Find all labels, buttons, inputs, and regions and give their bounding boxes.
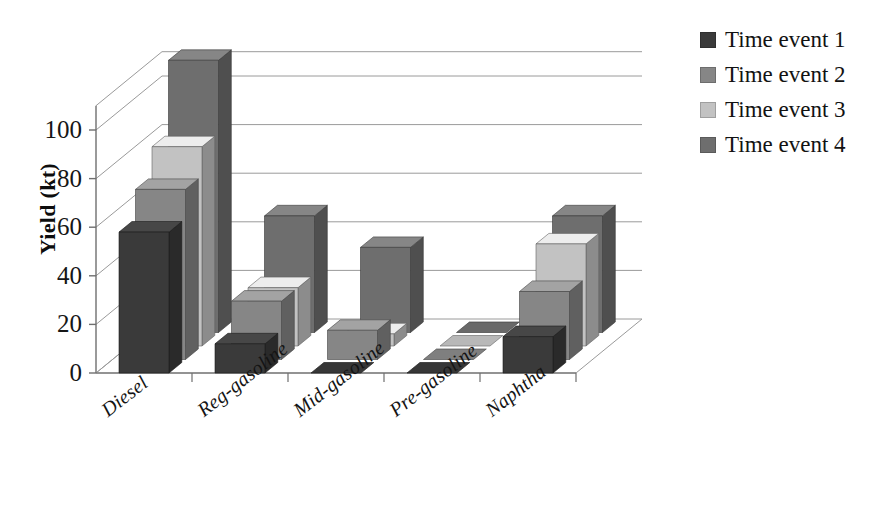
bar-3d [119,222,182,374]
y-axis-title: Yield (kt) [35,129,61,289]
legend-item-label: Time event 2 [725,63,846,86]
legend-color-swatch-icon [700,67,716,83]
bar-side-face [603,205,616,332]
legend-item-label: Time event 1 [725,28,846,51]
gridline-side [96,76,162,130]
legend-item[interactable]: Time event 4 [700,127,880,162]
bar-3d [361,237,424,333]
chart-legend: Time event 1Time event 2Time event 3Time… [700,22,880,162]
bar-side-face [219,50,232,333]
legend-item[interactable]: Time event 3 [700,92,880,127]
bar-side-face [586,233,599,346]
bar-side-face [202,136,215,346]
bar-front-face [119,232,169,373]
bar-side-face [298,277,311,346]
bar-side-face [169,222,182,374]
legend-color-swatch-icon [700,32,716,48]
legend-item-label: Time event 3 [725,98,846,121]
legend-item-label: Time event 4 [725,133,846,156]
bar-side-face [570,281,583,360]
legend-item[interactable]: Time event 2 [700,57,880,92]
y-axis-tick-label: 0 [10,360,82,385]
wall-top-side [96,52,162,106]
bars-layer [119,50,615,373]
legend-item[interactable]: Time event 1 [700,22,880,57]
bar-side-face [186,179,199,360]
bar-side-face [411,237,424,333]
bar-side-face [315,205,328,332]
chart-container: 100806040200 Yield (kt) DieselReg-gasoli… [0,0,885,528]
legend-color-swatch-icon [700,102,716,118]
legend-color-swatch-icon [700,137,716,153]
y-axis-tick-label: 20 [10,311,82,336]
